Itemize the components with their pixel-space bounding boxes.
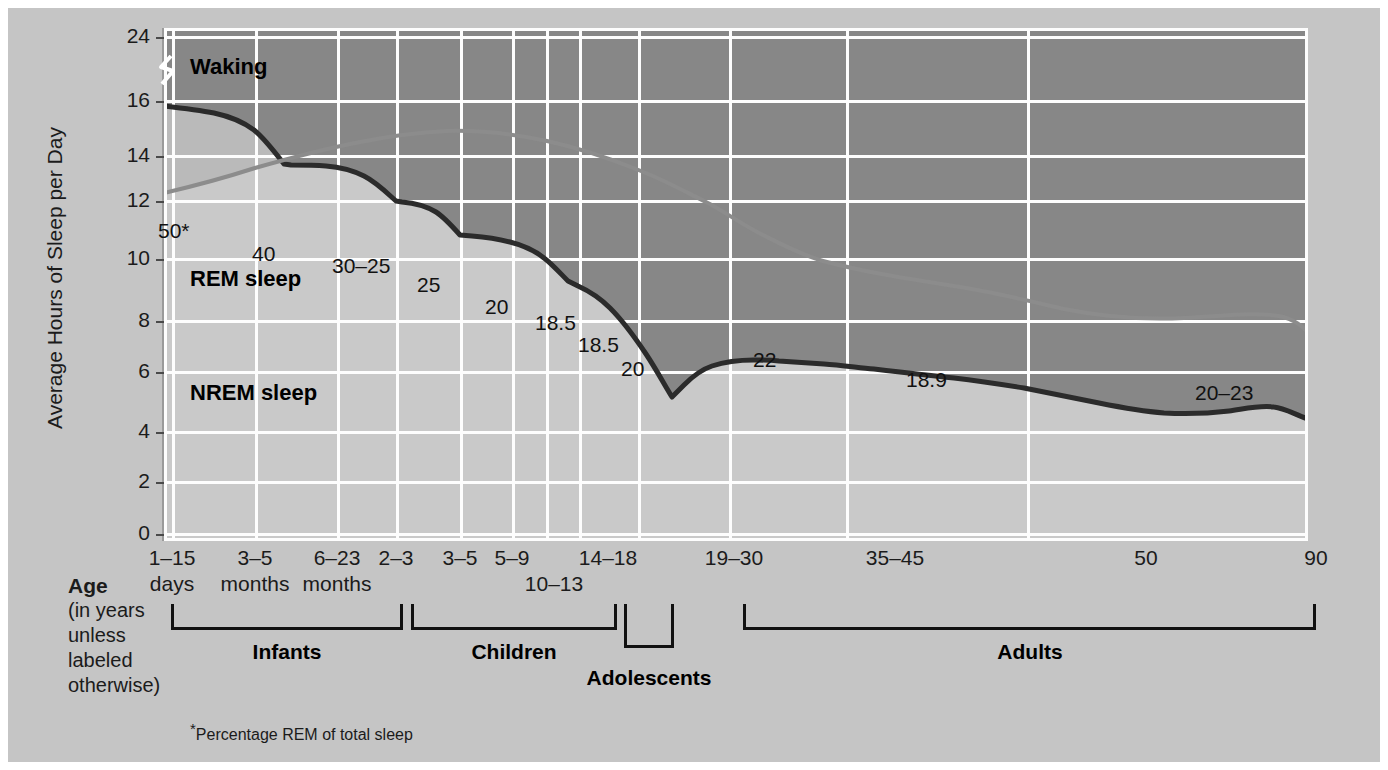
age-caption-line: otherwise): [68, 673, 160, 698]
y-tickmark: [156, 201, 164, 203]
age-caption-line: labeled: [68, 648, 160, 673]
y-tick-16: 16: [104, 88, 150, 112]
bracket-adolescents: [624, 604, 674, 648]
y-tick-4: 4: [104, 419, 150, 443]
rem-pct-annotation: 40: [252, 242, 275, 266]
y-axis-line: [162, 28, 164, 541]
axis-break-icon: [154, 54, 180, 88]
footnote-text: Percentage REM of total sleep: [196, 726, 413, 743]
curve-overlay: [164, 28, 1308, 541]
x-tick-label: 1–15: [132, 546, 212, 570]
rem-pct-annotation: 20: [485, 295, 508, 319]
x-tick-label: 14–18: [558, 546, 658, 570]
y-tick-0: 0: [104, 521, 150, 545]
x-tick-label: 90: [1286, 546, 1346, 570]
group-label-adults: Adults: [950, 640, 1110, 664]
rem-pct-annotation: 18.9: [906, 368, 947, 392]
x-tick-label: 50: [1116, 546, 1176, 570]
y-tickmark: [156, 259, 164, 261]
y-tickmark: [156, 372, 164, 374]
group-label-adolescents: Adolescents: [569, 666, 729, 690]
y-tick-10: 10: [104, 246, 150, 270]
bracket-adults: [743, 604, 1316, 630]
y-tickmark: [156, 156, 164, 158]
y-tickmark: [156, 101, 164, 103]
rem-pct-annotation: 20: [621, 357, 644, 381]
y-tickmark: [156, 37, 164, 39]
age-caption-line: (in years: [68, 598, 160, 623]
y-tickmark: [156, 534, 164, 536]
x-tick-label: 35–45: [845, 546, 945, 570]
y-tick-2: 2: [104, 469, 150, 493]
y-tick-8: 8: [104, 308, 150, 332]
y-tick-14: 14: [104, 143, 150, 167]
rem-pct-annotation: 18.5: [578, 333, 619, 357]
y-tickmark: [156, 432, 164, 434]
x-tick-sublabel: 10–13: [509, 572, 599, 596]
group-label-infants: Infants: [207, 640, 367, 664]
x-tick-label: 5–9: [472, 546, 552, 570]
y-tickmark: [156, 321, 164, 323]
age-label: Age: [68, 573, 160, 598]
y-tick-24: 24: [104, 24, 150, 48]
x-tick-label: 3–5: [215, 546, 295, 570]
y-tickmark: [156, 482, 164, 484]
rem-pct-annotation: 18.5: [535, 311, 576, 335]
sleep-chart-figure: Average Hours of Sleep per Day: [8, 8, 1380, 762]
bracket-infants: [171, 604, 403, 630]
y-tick-6: 6: [104, 359, 150, 383]
rem-pct-annotation: 25: [417, 273, 440, 297]
bracket-children: [411, 604, 617, 630]
rem-pct-annotation: 20–23: [1195, 381, 1253, 405]
x-tick-sublabel: months: [287, 572, 387, 596]
rem-area-label: REM sleep: [190, 266, 301, 292]
age-axis-caption: Age (in years unless labeled otherwise): [68, 573, 160, 698]
plot-area: Waking REM sleep NREM sleep 40 30–25 25 …: [164, 28, 1308, 541]
waking-area-label: Waking: [190, 54, 267, 80]
nrem-area-label: NREM sleep: [190, 380, 317, 406]
rem-pct-annotation: 22: [753, 348, 776, 372]
x-tick-label: 19–30: [684, 546, 784, 570]
footnote: *Percentage REM of total sleep: [190, 720, 413, 744]
age-caption-line: unless: [68, 623, 160, 648]
group-label-children: Children: [434, 640, 594, 664]
rem-pct-annotation: 30–25: [332, 254, 390, 278]
y-axis-title: Average Hours of Sleep per Day: [43, 113, 67, 443]
rem-pct-annotation-first: 50*: [158, 219, 190, 243]
y-tick-12: 12: [104, 188, 150, 212]
